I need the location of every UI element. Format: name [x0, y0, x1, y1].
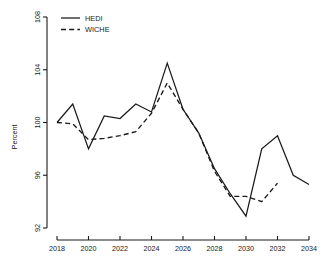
- legend-label-hedi: HEDI: [85, 14, 103, 23]
- y-tick-label: 108: [33, 11, 42, 23]
- legend-label-wiche: WICHE: [85, 25, 110, 34]
- x-tick-label: 2026: [175, 244, 191, 253]
- data-series-group: [57, 63, 309, 216]
- x-tick-label: 2018: [49, 244, 65, 253]
- x-tick-label: 2028: [207, 244, 223, 253]
- chart-legend: HEDIWICHE: [61, 14, 110, 34]
- chart-container: 9296100104108 20182020202220242026202820…: [0, 0, 323, 270]
- x-tick-label: 2030: [238, 244, 254, 253]
- x-tick-label: 2034: [301, 244, 317, 253]
- x-tick-label: 2032: [270, 244, 286, 253]
- y-tick-label: 96: [33, 171, 42, 179]
- x-tick-label: 2020: [81, 244, 97, 253]
- y-axis: 9296100104108: [33, 11, 47, 232]
- y-tick-label: 104: [33, 64, 42, 76]
- x-tick-label: 2024: [144, 244, 160, 253]
- y-tick-label: 100: [33, 117, 42, 129]
- line-chart: 9296100104108 20182020202220242026202820…: [0, 0, 323, 270]
- y-axis-title: Percent: [10, 125, 19, 150]
- x-axis: 201820202022202420262028203020322034: [49, 236, 317, 253]
- x-tick-label: 2022: [112, 244, 128, 253]
- y-tick-label: 92: [33, 224, 42, 232]
- series-line-wiche: [57, 83, 278, 202]
